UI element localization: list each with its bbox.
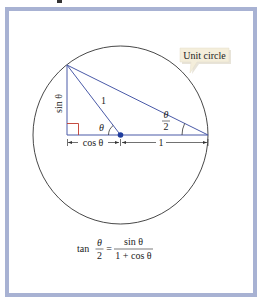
formula-equals: =: [106, 243, 112, 254]
half-angle-formula: tan θ 2 = sin θ 1 + cos θ: [77, 236, 153, 261]
callout-label: Unit circle: [183, 50, 226, 61]
center-dot: [118, 132, 124, 138]
cos-theta-dimension: cos θ: [68, 137, 121, 148]
unit-circle-callout: Unit circle: [180, 48, 231, 74]
half-theta-arc: [182, 123, 185, 135]
formula-rhs-numerator: sin θ: [124, 236, 143, 247]
formula-lhs-numerator: θ: [97, 237, 102, 248]
unit-circle-diagram: Unit circle 1 θ sin θ θ 2 cos θ 1: [0, 0, 261, 303]
formula-tan: tan: [77, 243, 89, 254]
theta-arc: [109, 126, 114, 136]
formula-rhs-denominator: 1 + cos θ: [115, 250, 151, 261]
formula-lhs-denominator: 2: [97, 250, 102, 261]
half-angle-label: θ 2: [162, 109, 170, 132]
theta-label: θ: [99, 122, 104, 133]
radius-line: [67, 65, 121, 135]
sin-theta-label: sin θ: [53, 94, 64, 113]
radius-one-dimension: 1: [122, 137, 208, 148]
chord-line: [67, 65, 208, 135]
half-angle-numerator: θ: [164, 109, 169, 120]
cos-theta-label: cos θ: [83, 137, 104, 148]
radius-one-label: 1: [159, 137, 164, 148]
right-angle-marker: [67, 124, 79, 136]
hypotenuse-label: 1: [101, 95, 106, 106]
half-angle-denominator: 2: [164, 121, 169, 132]
